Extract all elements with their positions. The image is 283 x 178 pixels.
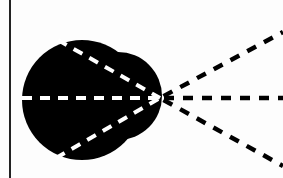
diagram-canvas	[0, 0, 283, 178]
outer-ray-0	[160, 32, 283, 98]
outer-dashed-rays	[160, 32, 283, 166]
diagram-svg	[0, 0, 283, 178]
outer-ray-2	[160, 98, 283, 166]
